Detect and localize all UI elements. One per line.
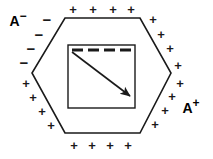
field-direction-arrow xyxy=(72,52,130,96)
terminal-label-sign: − xyxy=(20,9,27,23)
terminal-label-negative: A− xyxy=(9,14,26,28)
diagram-canvas xyxy=(0,0,213,159)
inner-compartment-rectangle xyxy=(68,45,135,108)
cell-outline-hexagon xyxy=(32,18,171,133)
cell-polarization-diagram: −−−−++++++++++++++++++++ A− A+ xyxy=(0,0,213,159)
terminal-label-positive: A+ xyxy=(182,101,199,115)
terminal-label-sign: + xyxy=(193,96,200,110)
